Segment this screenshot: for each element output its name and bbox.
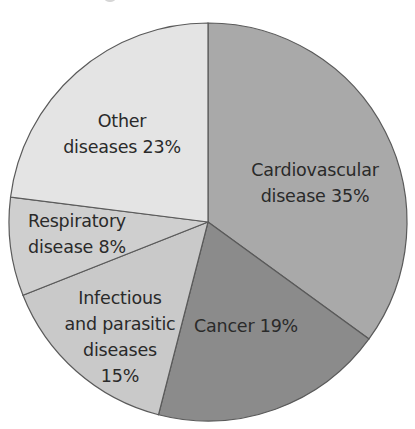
- label-respiratory: Respiratorydisease 8%: [28, 208, 126, 260]
- label-cancer: Cancer 19%: [194, 313, 298, 339]
- label-cardiovascular: Cardiovasculardisease 35%: [251, 157, 378, 209]
- label-other: Otherdiseases 23%: [63, 108, 181, 160]
- label-infectious: Infectiousand parasiticdiseases15%: [65, 285, 176, 389]
